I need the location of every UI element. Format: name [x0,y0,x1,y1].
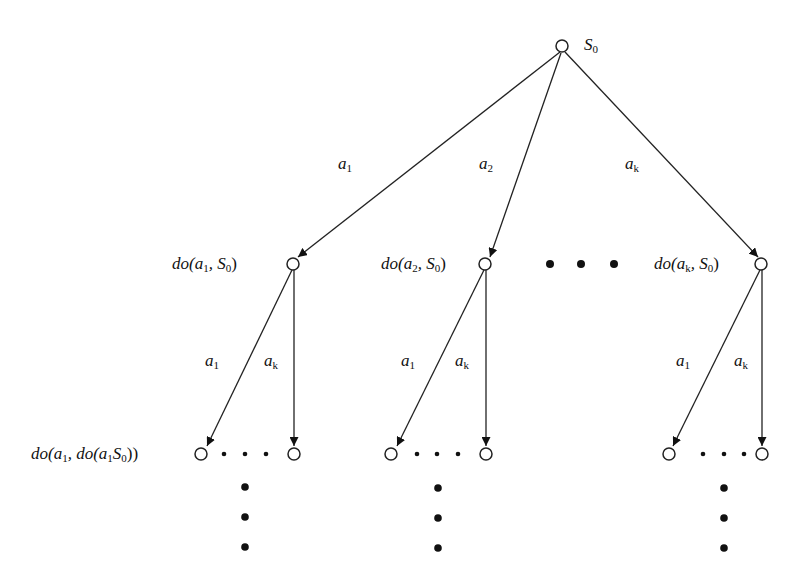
label-part: , S [209,254,226,273]
edge-label-text: a [455,351,464,370]
node-label-n2: do(a2, S0) [381,255,446,274]
edge-label-text: a [479,154,488,173]
ellipsis-leaf-dot [435,452,440,457]
ellipsis-level1-dot [546,260,554,268]
edge-label-sub: 1 [214,359,220,371]
leaf-label: do(a1, do(a1S0)) [31,445,138,464]
node-label-nk: do(ak, S0) [654,255,719,274]
edge-label-sub: k [634,162,640,174]
ellipsis-vertical-dot [434,514,442,522]
leaf-n2-left[interactable] [385,448,397,460]
edge-label-sub: 1 [410,359,416,371]
label-part: ) [440,254,446,273]
leaf-nk-left[interactable] [663,448,675,460]
ellipsis-leaf-dot [264,452,269,457]
label-part: , do(a [68,444,108,463]
ellipsis-leaf-dot [722,452,727,457]
ellipsis-leaf-dot [222,452,227,457]
label-part: do(a [381,254,412,273]
ellipsis-dots [222,260,747,552]
edge-label-text: a [401,351,410,370]
edge-label-sub: 2 [488,162,494,174]
node-root[interactable] [556,40,568,52]
ellipsis-leaf-dot [701,452,706,457]
root-label-sub: 0 [593,43,599,55]
edge-label-sub: k [743,359,749,371]
edge-label-n2-left: a1 [401,352,415,371]
ellipsis-vertical-dot [241,543,249,551]
leaf-nk-right[interactable] [756,448,768,460]
edge-label-text: a [625,154,634,173]
label-part: do(a [654,254,685,273]
edge-label-top-ak: ak [625,155,639,174]
ellipsis-vertical-dot [241,483,249,491]
root-label-text: S [584,35,593,54]
ellipsis-level1-dot [577,260,585,268]
ellipsis-level1-dot [610,260,618,268]
ellipsis-vertical-dot [720,514,728,522]
ellipsis-leaf-dot [415,452,420,457]
edge-label-sub: 1 [685,359,691,371]
node-nk[interactable] [755,258,767,270]
leaf-n1-left[interactable] [195,448,207,460]
ellipsis-vertical-dot [434,484,442,492]
edge-label-nk-right: ak [734,352,748,371]
edge-label-n2-right: ak [455,352,469,371]
top-edges [298,52,758,257]
ellipsis-vertical-dot [720,484,728,492]
edge-label-nk-left: a1 [676,352,690,371]
label-part: ) [713,254,719,273]
node-n2[interactable] [479,258,491,270]
edge-label-n1-right: ak [264,352,278,371]
edge-root-to-nk [565,52,758,257]
ellipsis-vertical-dot [720,544,728,552]
edge-label-sub: k [464,359,470,371]
edge-n1-left [207,270,292,446]
edge-label-text: a [264,351,273,370]
label-part: , S [418,254,435,273]
leaf-n2-right[interactable] [480,448,492,460]
edge-label-top-a2: a2 [479,155,493,174]
nodes [195,40,768,460]
node-n1[interactable] [287,258,299,270]
edge-root-to-n2 [490,53,561,257]
edge-label-sub: 1 [347,162,353,174]
ellipsis-leaf-dot [456,452,461,457]
edge-label-text: a [205,351,214,370]
tree-diagram [0,0,800,578]
edge-label-text: a [734,351,743,370]
ellipsis-vertical-dot [434,544,442,552]
node-label-n1: do(a1, S0) [172,255,237,274]
edge-label-text: a [338,154,347,173]
edge-label-top-a1: a1 [338,155,352,174]
label-part: ) [231,254,237,273]
label-part: )) [127,444,138,463]
ellipsis-leaf-dot [742,452,747,457]
leaf-n1-right[interactable] [288,448,300,460]
edge-label-sub: k [273,359,279,371]
label-part: , S [691,254,708,273]
edge-label-text: a [676,351,685,370]
label-part: do(a [31,444,62,463]
edge-label-n1-left: a1 [205,352,219,371]
ellipsis-vertical-dot [241,513,249,521]
label-part: do(a [172,254,203,273]
root-label: S0 [584,36,598,55]
ellipsis-leaf-dot [243,452,248,457]
